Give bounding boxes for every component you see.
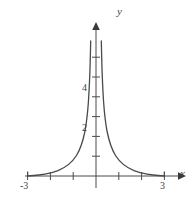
y-axis-label: y [117,6,122,17]
x-tick-label--3: -3 [20,181,28,191]
function-plot [0,0,194,203]
y-tick-label-4: 4 [82,83,87,93]
curve-left-branch [28,41,91,176]
y-tick-label-2: 2 [82,123,87,133]
figure-canvas: y x -3 3 2 4 [0,0,194,203]
x-axis-label: x [180,168,185,179]
x-tick-label-3: 3 [160,181,165,191]
curve-right-branch [101,41,164,176]
y-axis-arrowhead [92,22,100,30]
